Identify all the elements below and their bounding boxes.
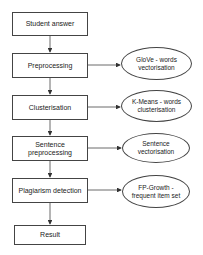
method-kmeans: K-Means - words clusterisation [121,90,192,122]
step-result: Result [14,225,86,245]
step-label: Preprocessing [28,62,73,70]
method-glove: GloVe - words vectorisation [121,47,192,80]
step-student-answer: Student answer [12,12,88,36]
step-label: Sentence preprocessing [25,141,75,157]
step-sentence-preprocessing: Sentence preprocessing [12,136,88,161]
method-fp-growth: FP-Growth - frequent item set [122,175,190,208]
step-label: Clusterisation [29,104,71,112]
step-clusterisation: Clusterisation [12,95,88,120]
step-preprocessing: Preprocessing [12,53,88,78]
step-label: Plagiarism detection [18,187,81,195]
method-label: GloVe - words vectorisation [128,56,185,72]
flow-arrows [0,0,203,255]
step-label: Student answer [26,20,75,28]
method-label: FP-Growth - frequent item set [131,184,181,200]
step-label: Result [40,231,60,239]
method-label: Sentence vectorisation [137,140,175,156]
step-plagiarism-detection: Plagiarism detection [12,178,88,203]
method-sentence-vectorisation: Sentence vectorisation [122,133,190,163]
method-label: K-Means - words clusterisation [128,98,185,114]
